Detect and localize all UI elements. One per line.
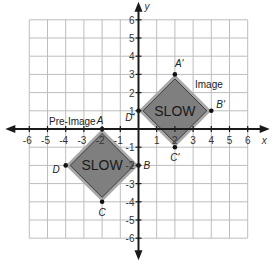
x-axis-label: x bbox=[261, 135, 268, 146]
y-axis-arrow-down-icon bbox=[135, 250, 143, 260]
x-tick-label: 1 bbox=[154, 135, 160, 146]
y-tick-label: -6 bbox=[126, 233, 135, 244]
x-axis-arrow-left-icon bbox=[5, 125, 15, 133]
x-axis-arrow-right-icon bbox=[260, 125, 270, 133]
y-axis-arrow-up-icon bbox=[135, 2, 143, 12]
y-axis-label: y bbox=[144, 1, 151, 12]
x-tick-label: -5 bbox=[41, 135, 50, 146]
vertex-label: D' bbox=[125, 112, 135, 123]
y-tick-label: -3 bbox=[126, 179, 135, 190]
vertex-label: B' bbox=[216, 99, 226, 110]
y-tick-label: 5 bbox=[129, 33, 135, 44]
x-tick-label: -2 bbox=[96, 135, 105, 146]
vertex-label: A bbox=[96, 115, 104, 126]
x-tick-label: -4 bbox=[59, 135, 68, 146]
coordinate-plane: SLOWSLOW -6-5-4-3-2-1123456-6-5-4-3-2-11… bbox=[0, 0, 278, 269]
vertex-label: C bbox=[98, 207, 106, 218]
pre-image-sign-text: SLOW bbox=[81, 157, 123, 173]
vertex-label: A' bbox=[174, 58, 185, 69]
x-tick-label: 2 bbox=[172, 135, 178, 146]
labels: -6-5-4-3-2-1123456-6-5-4-3-2-1123456xyAB… bbox=[23, 1, 268, 244]
y-tick-label: 3 bbox=[129, 69, 135, 80]
y-tick-label: -4 bbox=[126, 197, 135, 208]
x-tick-label: 5 bbox=[227, 135, 233, 146]
vertex-point bbox=[209, 109, 214, 114]
vertex-point bbox=[173, 72, 178, 77]
pre-image-label: Pre-Image bbox=[49, 116, 96, 127]
vertex-label: C' bbox=[170, 152, 180, 163]
vertex-point bbox=[100, 200, 105, 205]
y-tick-label: -2 bbox=[126, 160, 135, 171]
vertex-label: D bbox=[52, 164, 59, 175]
y-tick-label: -5 bbox=[126, 215, 135, 226]
y-tick-label: 4 bbox=[129, 51, 135, 62]
axes bbox=[5, 2, 269, 260]
y-tick-label: -1 bbox=[126, 142, 135, 153]
image-label: Image bbox=[195, 79, 223, 90]
vertex-label: B bbox=[144, 160, 151, 171]
x-tick-label: 6 bbox=[245, 135, 251, 146]
x-tick-label: 4 bbox=[209, 135, 215, 146]
x-tick-label: -1 bbox=[114, 135, 123, 146]
image-sign-text: SLOW bbox=[154, 103, 196, 119]
vertex-point bbox=[63, 163, 68, 168]
y-tick-label: 2 bbox=[129, 88, 135, 99]
x-tick-label: -3 bbox=[77, 135, 86, 146]
y-tick-label: 6 bbox=[129, 15, 135, 26]
x-tick-label: -6 bbox=[23, 135, 32, 146]
x-tick-label: 3 bbox=[190, 135, 196, 146]
